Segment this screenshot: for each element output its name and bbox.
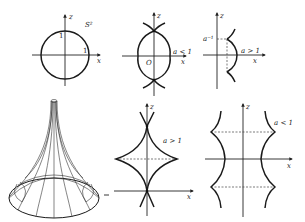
s2-label: S²: [85, 21, 93, 29]
condition-label: a > 1: [163, 137, 182, 145]
bulge-curve: [227, 39, 237, 72]
astroid-curve: [116, 126, 177, 191]
lower-branch: [227, 72, 235, 82]
panel-sphere-section: z x S² 1 1: [32, 13, 101, 86]
z-tick-1: 1: [59, 32, 63, 40]
panel-periodic-a-less-1: z x a < 1: [205, 103, 293, 217]
figure-canvas: z x S² 1 1 z x O a < 1 z x a⁻¹ a > 1: [0, 0, 305, 222]
x-tick-1: 1: [83, 47, 87, 55]
condition-label: a > 1: [241, 47, 260, 55]
panel-astroid-a-greater-1: z x a > 1: [114, 103, 193, 216]
right-curve: [261, 111, 275, 208]
z-label: z: [68, 13, 73, 21]
panel-half-a-greater-1: z x a⁻¹ a > 1: [203, 12, 265, 89]
z-label: z: [245, 103, 250, 111]
x-label: x: [97, 57, 101, 65]
panel-pseudosphere: [9, 100, 109, 219]
x-label: x: [253, 57, 257, 65]
x-label: x: [287, 162, 291, 170]
condition-label: a < 1: [274, 119, 293, 127]
upper-branch: [227, 29, 235, 39]
z-label: z: [219, 12, 224, 20]
condition-label: a < 1: [173, 48, 192, 56]
panel-oval-a-less-1: z x O a < 1: [122, 12, 192, 96]
z-tick-a-inverse: a⁻¹: [203, 35, 214, 43]
z-label: z: [149, 103, 154, 111]
z-label: z: [156, 12, 161, 20]
x-label: x: [181, 58, 185, 66]
left-curve: [211, 111, 225, 208]
x-label: x: [187, 193, 191, 201]
origin-label: O: [146, 59, 152, 67]
